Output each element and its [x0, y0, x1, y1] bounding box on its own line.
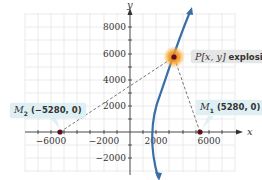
m2-label: M — [14, 104, 24, 115]
hyperbola-diagram: 8000 6000 4000 2000 −2000 −6000 −2000 20… — [0, 0, 262, 180]
x-axis-arrow-icon — [236, 130, 243, 135]
tick-y-neg2000: −2000 — [96, 153, 127, 163]
tick-y-4000: 4000 — [103, 75, 126, 85]
tick-x-6000: 6000 — [198, 136, 221, 146]
curve-arrow-top-icon — [186, 7, 193, 15]
axes — [25, 8, 243, 175]
point-m2 — [57, 129, 62, 134]
m1-callout-pointer — [202, 116, 214, 129]
m1-label: M — [200, 101, 210, 112]
m1-callout: M1 (5280, 0) — [196, 100, 262, 115]
m2-callout-pointer — [50, 118, 60, 129]
tick-y-8000: 8000 — [103, 22, 126, 32]
tick-y-6000: 6000 — [103, 49, 126, 59]
m1-subscript: 1 — [210, 107, 214, 114]
tick-x-neg6000: −6000 — [36, 136, 67, 146]
p-description: explosion — [229, 52, 262, 62]
m1-coords: (5280, 0) — [217, 102, 261, 112]
tick-y-2000: 2000 — [103, 101, 126, 111]
point-m1 — [197, 129, 202, 134]
coordinate-plane: 8000 6000 4000 2000 −2000 −6000 −2000 20… — [0, 0, 262, 180]
y-axis-label: y — [126, 0, 133, 10]
point-p — [171, 54, 176, 59]
x-axis-label: x — [247, 126, 253, 137]
tick-labels: 8000 6000 4000 2000 −2000 −6000 −2000 20… — [36, 0, 253, 163]
m2-coords: (−5280, 0) — [31, 105, 82, 115]
p-coords: [x, y] — [201, 51, 225, 62]
tick-x-neg2000: −2000 — [89, 136, 120, 146]
p-explosion-callout: P[x, y] explosion — [191, 50, 262, 63]
m2-subscript: 2 — [24, 110, 28, 117]
curve-arrow-bottom-icon — [155, 172, 162, 180]
m2-callout: M2 (−5280, 0) — [10, 103, 86, 118]
tick-x-2000: 2000 — [145, 136, 168, 146]
hyperbola-curve — [152, 12, 190, 177]
